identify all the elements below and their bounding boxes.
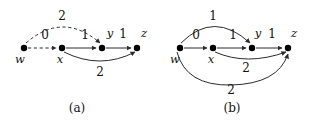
node-label-a-w: w — [15, 54, 25, 66]
figure-graph-pair: w x y z 0 1 1 2 2 (a) w x y z 0 1 1 1 2 … — [0, 0, 314, 121]
edge-weight-b-w-x: 0 — [192, 29, 200, 41]
edge-weight-a-w-x: 0 — [41, 29, 49, 41]
edge-a-x-z — [64, 52, 135, 61]
edge-weight-b-x-y: 1 — [229, 29, 237, 41]
node-a-x — [59, 45, 65, 51]
edge-a-w-y — [26, 27, 100, 43]
node-label-b-x: x — [208, 54, 215, 66]
edge-weight-b-w-z: 2 — [227, 84, 235, 96]
edge-weight-a-y-z: 1 — [119, 28, 127, 40]
edge-weight-a-x-z: 2 — [96, 66, 104, 78]
edge-weight-b-y-z: 1 — [268, 28, 276, 40]
edge-weight-b-x-z: 2 — [242, 62, 250, 74]
node-label-a-z: z — [141, 28, 147, 40]
node-b-y — [249, 45, 255, 51]
node-label-a-y: y — [107, 28, 114, 40]
node-b-z — [285, 45, 291, 51]
node-a-w — [21, 45, 27, 51]
caption-panel-a: (a) — [69, 102, 86, 114]
node-a-z — [134, 45, 140, 51]
graph-canvas — [0, 0, 314, 121]
node-label-a-x: x — [57, 54, 64, 66]
edge-b-x-z — [215, 52, 286, 59]
node-b-w — [177, 45, 183, 51]
node-label-b-w: w — [170, 54, 180, 66]
node-b-x — [210, 45, 216, 51]
node-a-y — [99, 45, 105, 51]
node-label-b-y: y — [255, 28, 262, 40]
edge-weight-a-w-y: 2 — [58, 10, 66, 22]
caption-panel-b: (b) — [223, 102, 240, 114]
edge-weight-a-x-y: 1 — [81, 29, 89, 41]
node-label-b-z: z — [291, 28, 297, 40]
edge-weight-b-w-y: 1 — [209, 10, 217, 22]
